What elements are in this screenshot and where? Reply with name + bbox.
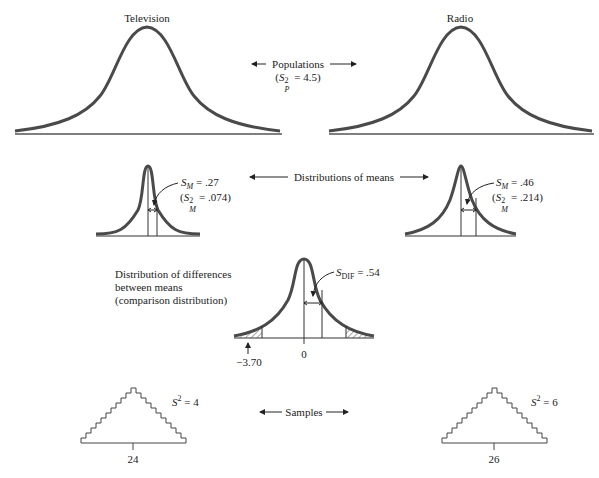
distributions-of-means-label: Distributions of means [294,171,394,183]
var-value: = .074 [199,191,227,203]
radio-sm-label: SM = .46 [496,176,534,188]
television-population-curve [15,27,282,134]
television-sample-histogram [81,388,186,450]
zero-label: 0 [301,348,307,360]
sdif-subscript: DIF [342,272,355,281]
t-score-label: −3.70 [236,356,261,368]
var-value: = .214 [511,191,539,203]
comparison-label-line3: (comparison distribution) [115,294,227,306]
var-subscript: M [501,204,508,216]
var-subscript: M [189,204,196,216]
comparison-label-line1: Distribution of differences [115,268,232,280]
sm-value: = .27 [196,176,219,188]
sdif-value: = .54 [357,266,380,278]
radio-population-curve [329,27,594,134]
population-variance: (S2P = 4.5) [275,71,320,83]
radio-title: Radio [447,12,473,24]
radio-sample-mean: 26 [489,453,500,465]
variance-value: = 6 [543,396,557,408]
television-title: Television [124,12,170,24]
sm-subscript: M [187,182,194,191]
comparison-label-line2: between means [115,281,183,293]
radio-sample-variance: S2 = 6 [531,396,558,408]
variance-superscript: 2 [537,394,541,403]
radio-sm-variance: (S2M = .214) [492,191,543,203]
television-sample-mean: 24 [128,453,139,465]
populations-label: Populations [272,58,324,70]
variance-value: = 4.5 [294,71,317,83]
variance-subscript: P [285,84,290,96]
variance-value: = 4 [184,396,198,408]
sm-value: = .46 [511,176,534,188]
television-sm-variance: (S2M = .074) [180,191,231,203]
sdif-label: SDIF = .54 [336,266,380,278]
sm-subscript: M [502,182,509,191]
television-sm-label: SM = .27 [181,176,219,188]
variance-superscript: 2 [178,394,182,403]
television-sample-variance: S2 = 4 [172,396,199,408]
samples-label: Samples [285,406,322,418]
